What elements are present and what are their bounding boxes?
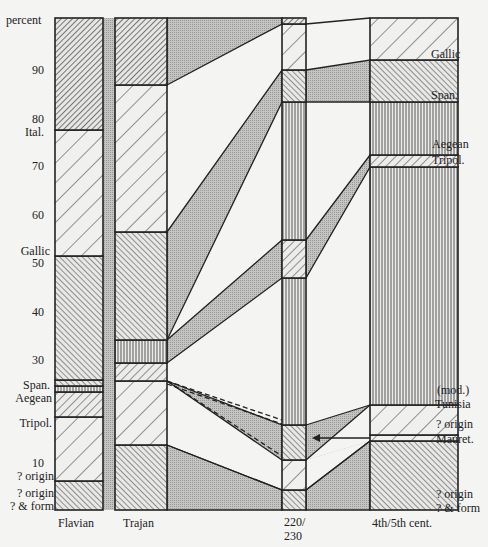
column-220-230 (282, 18, 306, 510)
column-flavian (55, 18, 103, 510)
x-label-late: 4th/5th cent. (372, 516, 432, 530)
x-label-trajan: Trajan (123, 516, 154, 530)
left-label-span: Span. (6, 379, 50, 391)
y-tick-80: 80 (0, 113, 44, 125)
column-trajan (115, 18, 167, 510)
right-label-origin-2: ? origin (436, 488, 473, 500)
stacked-percent-chart (0, 0, 488, 547)
left-label-gallic: Gallic (6, 245, 50, 257)
right-label-gallic: Gallic (431, 48, 460, 60)
y-tick-30: 30 (0, 354, 44, 366)
left-label-origin-1: ? origin (10, 470, 54, 482)
y-tick-50: 50 (0, 257, 44, 269)
y-tick-40: 40 (0, 306, 44, 318)
right-label-aegean: Aegean (432, 138, 469, 150)
y-tick-70: 70 (0, 160, 44, 172)
x-label-220-a: 220/ (284, 515, 305, 529)
left-label-aegean: Aegean (8, 392, 52, 404)
y-tick-60: 60 (0, 209, 44, 221)
right-label-mod: (mod.) (437, 384, 469, 396)
x-label-flavian: Flavian (58, 516, 94, 530)
left-label-form: ? & form (10, 500, 54, 512)
y-tick-90: 90 (0, 64, 44, 76)
right-label-form: ? & form (436, 502, 480, 514)
right-label-span: Span. (431, 89, 458, 101)
right-label-origin-1: ? origin (436, 418, 473, 430)
y-axis-title: percent (6, 14, 41, 26)
right-label-tunisia: Tunisia (435, 398, 471, 410)
right-label-tripol: Tripol. (432, 154, 465, 166)
left-label-tripol: Tripol. (8, 417, 52, 429)
x-label-220-b: 230 (284, 529, 302, 543)
y-tick-10: 10 (0, 457, 44, 469)
left-label-origin-2: ? origin (10, 487, 54, 499)
right-label-mauret: Mauret. (436, 433, 474, 445)
left-label-ital: Ital. (0, 126, 44, 138)
